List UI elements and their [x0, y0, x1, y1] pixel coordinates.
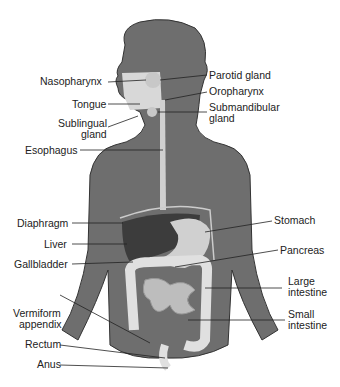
label-sublingual-line2: gland [81, 129, 107, 140]
label-submandibular-line2: gland [209, 113, 235, 124]
label-oropharynx: Oropharynx [209, 86, 264, 97]
label-stomach: Stomach [274, 215, 315, 226]
label-tongue: Tongue [72, 99, 106, 110]
label-nasopharynx: Nasopharynx [40, 76, 102, 87]
label-diaphragm: Diaphragm [17, 218, 68, 229]
label-pancreas: Pancreas [280, 245, 324, 256]
submandibular-shape [147, 107, 157, 117]
label-small-intestine: intestine [288, 320, 327, 331]
label-appendix: appendix [19, 319, 62, 330]
label-rectum: Rectum [25, 339, 61, 350]
label-gallbladder: Gallbladder [14, 259, 68, 270]
label-esophagus: Esophagus [25, 145, 78, 156]
label-liver: Liver [44, 239, 67, 250]
label-large-intestine: intestine [288, 287, 327, 298]
label-parotid: Parotid gland [209, 70, 271, 81]
label-anus: Anus [37, 359, 61, 370]
esophagus-shape [160, 100, 166, 210]
parotid-shape [145, 72, 161, 88]
